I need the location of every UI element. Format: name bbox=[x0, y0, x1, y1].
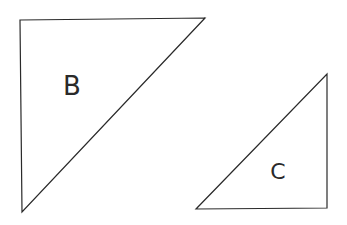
triangle-b-label: B bbox=[63, 71, 81, 101]
triangle-c bbox=[196, 74, 327, 209]
triangle-c-label: C bbox=[270, 159, 285, 184]
triangle-b bbox=[20, 18, 205, 212]
triangles-diagram: B C bbox=[0, 0, 347, 225]
